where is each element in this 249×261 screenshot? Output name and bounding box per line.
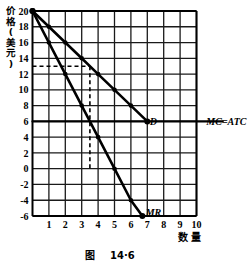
y-tick-label: 4 bbox=[24, 132, 29, 143]
y-tick-label: 6 bbox=[24, 116, 29, 127]
curves bbox=[30, 8, 223, 219]
data-point-marker bbox=[47, 24, 52, 29]
data-point-marker bbox=[96, 72, 101, 77]
x-tick-label: 10 bbox=[192, 219, 202, 230]
x-tick-label: 8 bbox=[161, 219, 166, 230]
x-tick-label: 2 bbox=[63, 219, 68, 230]
data-point-marker bbox=[63, 72, 68, 77]
x-axis-label: 数 量 bbox=[178, 231, 201, 243]
x-tick-label: 9 bbox=[178, 219, 183, 230]
data-point-marker bbox=[79, 103, 84, 108]
x-tick-label: 7 bbox=[145, 219, 150, 230]
data-point-marker bbox=[96, 135, 101, 140]
x-tick-label: 3 bbox=[79, 219, 84, 230]
data-point-marker bbox=[47, 40, 52, 45]
y-tick-label: 2 bbox=[24, 148, 29, 159]
y-tick-label: 16 bbox=[19, 37, 29, 48]
curve-label-d: D bbox=[149, 116, 157, 127]
data-point-marker bbox=[30, 8, 36, 14]
y-axis-tick-labels: 20181614121086420-2-4-6 bbox=[19, 6, 29, 222]
curve-label-mr: MR bbox=[145, 207, 162, 218]
data-point-marker bbox=[129, 198, 134, 203]
y-tick-label: -4 bbox=[20, 195, 28, 206]
y-tick-label: 0 bbox=[24, 163, 29, 174]
data-point-marker bbox=[79, 56, 84, 61]
x-tick-label: 5 bbox=[112, 219, 117, 230]
figure-root: 价 格 ( 美 元 ) 20181614121086420-2-4-6 1234… bbox=[0, 0, 249, 261]
y-tick-label: -6 bbox=[20, 211, 28, 222]
y-tick-label: -2 bbox=[20, 179, 28, 190]
y-tick-label: 20 bbox=[19, 6, 29, 17]
data-point-marker bbox=[112, 166, 117, 171]
y-tick-label: 12 bbox=[19, 69, 29, 80]
data-point-marker bbox=[139, 213, 145, 219]
figure-caption-number: 14·6 bbox=[110, 250, 135, 261]
economics-chart: 20181614121086420-2-4-6 12345678910 DMRM… bbox=[0, 0, 249, 261]
x-axis-tick-labels: 12345678910 bbox=[46, 219, 201, 230]
x-tick-label: 4 bbox=[96, 219, 101, 230]
y-tick-label: 14 bbox=[19, 53, 29, 64]
y-tick-label: 8 bbox=[24, 100, 29, 111]
y-tick-label: 10 bbox=[19, 84, 29, 95]
data-point-marker bbox=[129, 103, 134, 108]
data-point-marker bbox=[112, 88, 117, 93]
figure-caption-prefix: 图 bbox=[85, 250, 95, 261]
x-tick-label: 1 bbox=[46, 219, 51, 230]
y-tick-label: 18 bbox=[19, 21, 29, 32]
x-tick-label: 6 bbox=[128, 219, 133, 230]
data-point-marker bbox=[63, 40, 68, 45]
curve-label-mc-atc: MC=ATC bbox=[205, 116, 246, 127]
grid-lines bbox=[33, 11, 197, 216]
